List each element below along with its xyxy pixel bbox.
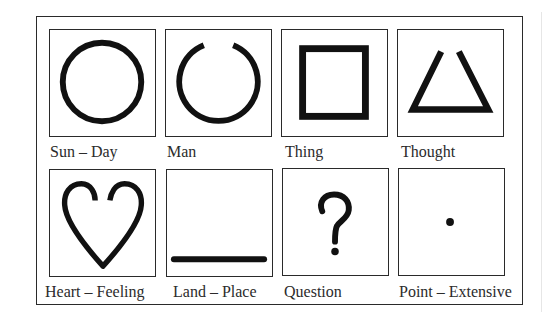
symbol-box-man [165, 29, 272, 137]
horizontal-line-icon [167, 170, 272, 276]
question-mark-icon [283, 169, 388, 275]
symbol-box-point-extensive [398, 168, 505, 276]
open-circle-icon [166, 30, 271, 136]
heart-icon [50, 170, 155, 276]
symbol-label: Thing [285, 144, 323, 160]
symbol-label: Sun – Day [50, 144, 118, 160]
square-icon [282, 30, 387, 136]
symbol-box-thing [281, 29, 388, 137]
symbol-box-land-place [166, 169, 273, 277]
symbol-label: Land – Place [173, 284, 257, 300]
symbol-label: Point – Extensive [399, 284, 512, 300]
symbol-label: Question [284, 284, 342, 300]
symbol-box-sun-day [49, 29, 156, 137]
symbol-label: Man [167, 144, 196, 160]
dot-icon [399, 169, 504, 275]
symbol-label: Heart – Feeling [45, 284, 145, 300]
symbol-box-thought [397, 29, 504, 137]
symbol-box-question [282, 168, 389, 276]
symbol-label: Thought [401, 144, 455, 160]
open-triangle-icon [398, 30, 503, 136]
circle-icon [50, 30, 155, 136]
symbol-box-heart-feeling [49, 169, 156, 277]
edge-divider [541, 12, 542, 312]
